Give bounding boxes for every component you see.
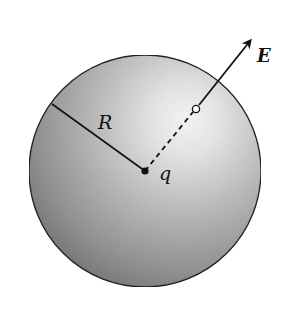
radius-label: R [97,111,112,133]
field-point [192,105,199,112]
charge-label: q [159,162,171,184]
charged-sphere-diagram: R q E [0,0,297,321]
charge-dot [141,167,148,174]
field-label: E [256,45,271,66]
